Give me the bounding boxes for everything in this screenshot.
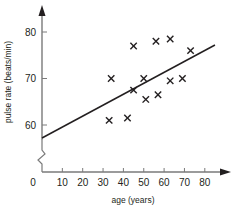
- x-tick-label: 20: [77, 177, 89, 188]
- fit-line: [42, 45, 215, 138]
- data-point-x-marker-icon: [130, 43, 136, 49]
- y-axis-label: pulse rate (beats/min): [3, 41, 13, 123]
- data-point-x-marker-icon: [143, 96, 149, 102]
- x-tick-label: 50: [138, 177, 150, 188]
- scatter-chart: 01020304050607080607080 age (years) puls…: [0, 0, 247, 207]
- x-tick-label: 40: [118, 177, 130, 188]
- data-point-x-marker-icon: [124, 115, 130, 121]
- data-point-x-marker-icon: [167, 36, 173, 42]
- data-point-x-marker-icon: [187, 47, 193, 53]
- y-tick-label: 60: [25, 120, 37, 131]
- y-tick-label: 80: [25, 27, 37, 38]
- data-point-x-marker-icon: [108, 75, 114, 81]
- tick-labels: 01020304050607080607080: [25, 27, 211, 189]
- y-axis-break-icon: [38, 140, 45, 172]
- data-point-x-marker-icon: [153, 38, 159, 44]
- data-point-x-marker-icon: [106, 117, 112, 123]
- y-axis-arrow-icon: [39, 5, 46, 16]
- x-tick-label: 60: [159, 177, 171, 188]
- data-point-x-marker-icon: [155, 92, 161, 98]
- x-axis-arrow-icon: [220, 169, 231, 176]
- line-of-best-fit: [42, 45, 215, 138]
- x-tick-label: 0: [30, 177, 36, 188]
- x-tick-label: 30: [97, 177, 109, 188]
- x-axis-label: age (years): [112, 195, 155, 205]
- y-tick-label: 70: [25, 73, 37, 84]
- x-tick-label: 10: [57, 177, 69, 188]
- data-point-x-marker-icon: [179, 75, 185, 81]
- x-tick-label: 70: [179, 177, 191, 188]
- x-tick-label: 80: [199, 177, 211, 188]
- tick-marks: [42, 32, 205, 172]
- data-point-x-marker-icon: [167, 78, 173, 84]
- data-point-x-marker-icon: [141, 75, 147, 81]
